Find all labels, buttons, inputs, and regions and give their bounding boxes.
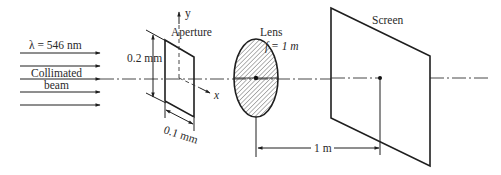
beam-label-line1: Collimated <box>31 67 82 79</box>
wavelength-label: λ = 546 nm <box>29 39 82 51</box>
focal-length-label: f = 1 m <box>265 40 299 53</box>
distance-label: 1 m <box>314 142 332 154</box>
y-axis-label: y <box>185 7 191 20</box>
optics-diagram: λ = 546 nm Collimated beam y x Aperture … <box>0 0 501 175</box>
x-axis-label: x <box>213 89 220 101</box>
lens-label: Lens <box>260 26 283 38</box>
beam-label-line2: beam <box>44 79 69 91</box>
aperture-label: Aperture <box>171 26 212 39</box>
x-axis-arrow <box>200 88 210 93</box>
height-label: 0.2 mm <box>127 52 162 64</box>
width-dimension-arrow <box>166 110 193 124</box>
screen <box>331 8 430 166</box>
lens <box>234 39 278 157</box>
screen-label: Screen <box>372 14 404 26</box>
lens-center-dot <box>254 76 258 80</box>
